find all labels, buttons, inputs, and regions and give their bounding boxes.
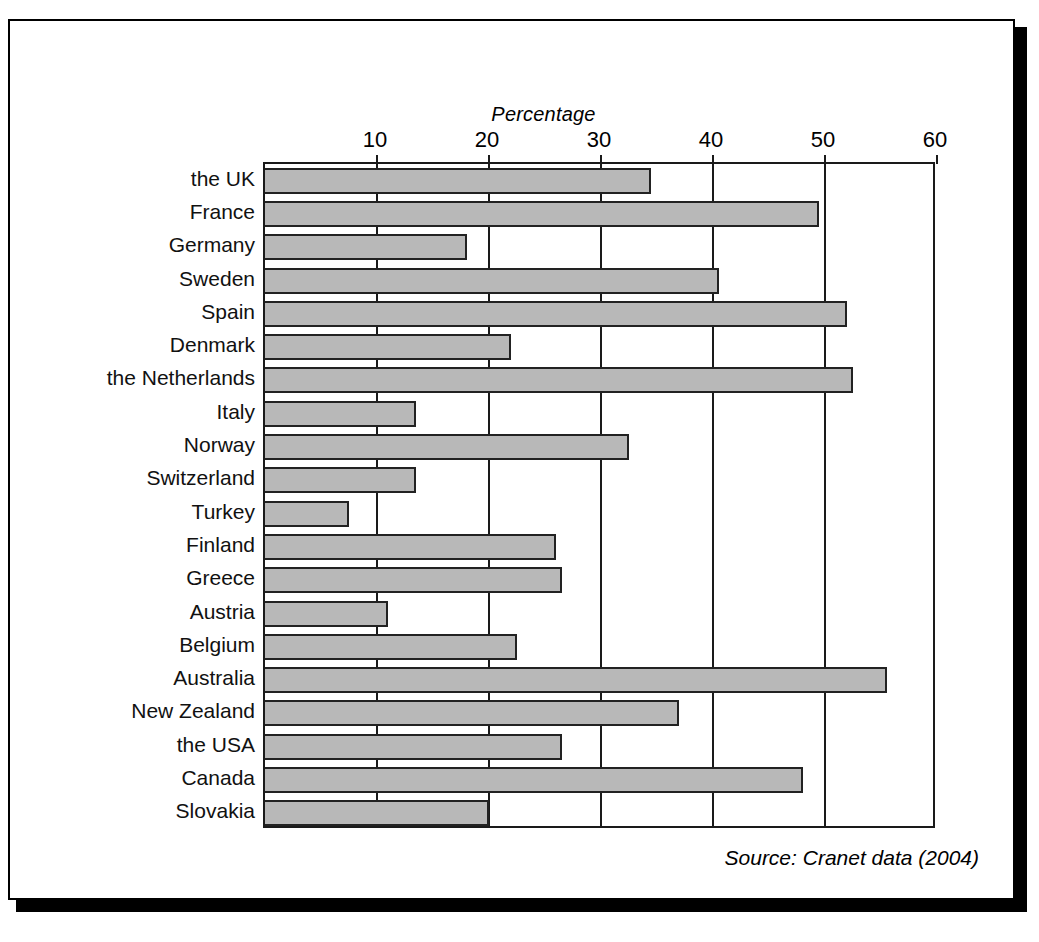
bar-chart: Percentage 102030405060 the UKFranceGerm… <box>10 21 1017 902</box>
category-label: Belgium <box>10 634 255 655</box>
bar <box>265 268 719 294</box>
x-tick-label: 20 <box>475 127 499 153</box>
x-tick-mark <box>376 155 378 164</box>
figure-frame: Percentage 102030405060 the UKFranceGerm… <box>8 19 1015 900</box>
bar <box>265 401 416 427</box>
category-label: Austria <box>10 601 255 622</box>
bar <box>265 334 511 360</box>
category-label: Spain <box>10 301 255 322</box>
category-label: the Netherlands <box>10 367 255 388</box>
category-label: the USA <box>10 734 255 755</box>
x-tick-label: 60 <box>923 127 947 153</box>
bar <box>265 501 349 527</box>
x-tick-label: 40 <box>699 127 723 153</box>
x-tick-label: 10 <box>363 127 387 153</box>
bar <box>265 534 556 560</box>
bar <box>265 634 517 660</box>
category-label: Greece <box>10 567 255 588</box>
bar <box>265 234 467 260</box>
y-axis-category-labels: the UKFranceGermanySwedenSpainDenmarkthe… <box>10 162 255 828</box>
bar <box>265 700 679 726</box>
category-label: New Zealand <box>10 700 255 721</box>
bar <box>265 734 562 760</box>
bar <box>265 367 853 393</box>
source-note: Source: Cranet data (2004) <box>725 846 979 870</box>
x-tick-mark <box>936 155 938 164</box>
bar <box>265 201 819 227</box>
bar <box>265 667 887 693</box>
bar <box>265 767 803 793</box>
category-label: Canada <box>10 767 255 788</box>
category-label: Sweden <box>10 268 255 289</box>
bar <box>265 601 388 627</box>
category-label: Italy <box>10 401 255 422</box>
bar <box>265 168 651 194</box>
x-axis-title: Percentage <box>10 103 1017 126</box>
category-label: Finland <box>10 534 255 555</box>
bars-layer <box>265 164 933 826</box>
x-tick-label: 50 <box>811 127 835 153</box>
bar <box>265 800 489 826</box>
category-label: Norway <box>10 434 255 455</box>
bar <box>265 434 629 460</box>
category-label: Switzerland <box>10 467 255 488</box>
x-tick-mark <box>712 155 714 164</box>
x-tick-mark <box>824 155 826 164</box>
x-tick-mark <box>488 155 490 164</box>
category-label: France <box>10 201 255 222</box>
bar <box>265 567 562 593</box>
figure-root: Percentage 102030405060 the UKFranceGerm… <box>0 0 1039 942</box>
category-label: Australia <box>10 667 255 688</box>
category-label: Slovakia <box>10 800 255 821</box>
x-tick-label: 30 <box>587 127 611 153</box>
category-label: Turkey <box>10 501 255 522</box>
category-label: Denmark <box>10 334 255 355</box>
bar <box>265 301 847 327</box>
plot-area <box>263 162 935 828</box>
category-label: Germany <box>10 234 255 255</box>
x-tick-mark <box>600 155 602 164</box>
bar <box>265 467 416 493</box>
x-axis-tick-labels: 102030405060 <box>10 127 1017 157</box>
category-label: the UK <box>10 168 255 189</box>
